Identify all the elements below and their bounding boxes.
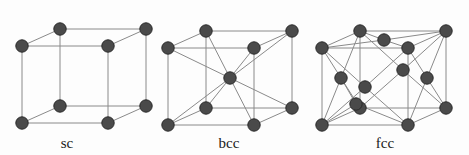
- atom-corner-front-bottom-right: [248, 119, 260, 131]
- atom-corner-back-bottom-left: [200, 102, 212, 114]
- cell-label-fcc: fcc: [376, 135, 395, 151]
- lattice-bond: [365, 87, 408, 125]
- atom-corner-back-bottom-right: [140, 100, 152, 112]
- atom-corner-back-bottom-right: [286, 102, 298, 114]
- atom-corner-front-bottom-right: [102, 117, 114, 129]
- atom-corner-back-top-left: [54, 23, 66, 35]
- atom-face-center-right: [421, 72, 433, 84]
- atom-face-center-back: [397, 64, 409, 76]
- cell-label-bcc: bcc: [219, 135, 240, 151]
- lattice-bond: [230, 78, 254, 125]
- atom-face-center-lower-front: [350, 98, 362, 110]
- lattice-bond: [230, 78, 292, 108]
- lattice-bond: [206, 31, 230, 78]
- atom-corner-front-bottom-right: [402, 119, 414, 131]
- lattice-bond: [168, 78, 230, 125]
- atom-corner-front-top-right: [248, 42, 260, 54]
- cell-group-fcc: [316, 25, 452, 131]
- atom-corner-front-top-left: [316, 42, 328, 54]
- atom-face-center-left: [335, 72, 347, 84]
- atom-corner-front-top-right: [102, 40, 114, 52]
- atom-corner-front-top-left: [16, 40, 28, 52]
- cell-labels: scbccfcc: [61, 135, 395, 151]
- atom-corner-front-bottom-left: [162, 119, 174, 131]
- atom-corner-back-bottom-right: [440, 102, 452, 114]
- lattice-bond: [168, 48, 230, 78]
- cell-group-sc: [16, 23, 152, 129]
- atom-corner-front-top-right: [402, 42, 414, 54]
- atom-face-center-front: [359, 81, 371, 93]
- atom-corner-back-top-left: [200, 25, 212, 37]
- atom-corner-back-top-right: [140, 23, 152, 35]
- cell-group-bcc: [162, 25, 298, 131]
- crystal-lattice-figure: scbccfcc: [0, 0, 469, 155]
- atom-corner-front-bottom-left: [16, 117, 28, 129]
- atom-corner-back-top-right: [440, 25, 452, 37]
- atom-body-center-atom: [224, 72, 236, 84]
- atom-face-center-top: [378, 34, 390, 46]
- cell-label-sc: sc: [61, 135, 74, 151]
- atom-corner-back-top-right: [286, 25, 298, 37]
- atom-corner-front-top-left: [162, 42, 174, 54]
- lattice-bond: [230, 31, 292, 78]
- atom-corner-back-top-left: [354, 25, 366, 37]
- atom-corner-back-bottom-left: [54, 100, 66, 112]
- lattice-canvas: scbccfcc: [0, 0, 469, 155]
- atom-corner-front-bottom-left: [316, 119, 328, 131]
